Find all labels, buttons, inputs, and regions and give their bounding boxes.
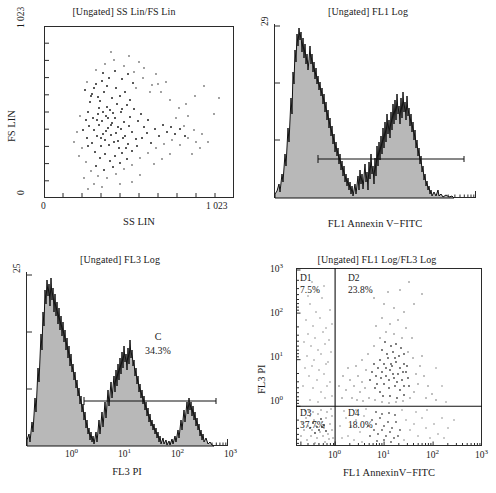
panel-fl1-hist-svg (274, 24, 476, 198)
quadrant-label-d4: D4 18.0% (348, 407, 373, 432)
panel-fl1-fl3-quad-xtick-0: 100 (328, 450, 341, 460)
panel-fl3-hist-gate-marker (84, 397, 216, 405)
panel-fl1-fl3-quad-ylabel: FL3 PI (256, 365, 267, 394)
panel-fl3-hist-plot-area (26, 272, 228, 446)
panel-ss-fs-xtick-max: 1 023 (206, 201, 227, 211)
panel-fl3-hist-gate-percent: 34.3% (118, 344, 198, 358)
panel-fl3-hist-xtick-0: 100 (65, 449, 78, 459)
panel-fl3-hist-svg (26, 272, 228, 446)
panel-fl1-hist-plot-area (274, 24, 476, 198)
panel-ss-fs: [Ungated] SS Lin/FS Lin 1 023 0 FS LIN (0, 0, 248, 246)
panel-fl1-hist-curve (275, 28, 454, 198)
quadrant-d2-percent: 23.8% (348, 284, 373, 296)
panel-fl3-hist-title: [Ungated] FL3 Log (10, 254, 230, 265)
panel-ss-fs-svg (44, 26, 234, 198)
panel-ss-fs-xtick-min: 0 (41, 201, 46, 211)
quadrant-d1-percent: 7.5% (300, 284, 320, 296)
panel-fl1-fl3-quad-xtick-3: 103 (475, 450, 488, 460)
flow-cytometry-figure: [Ungated] SS Lin/FS Lin 1 023 0 FS LIN (0, 0, 496, 493)
panel-fl3-hist-ymax-label: 25 (12, 264, 22, 274)
panel-fl1-fl3-quad-xtick-2: 102 (426, 450, 439, 460)
panel-fl3-hist-curve (27, 278, 214, 446)
panel-ss-fs-ylabel: FS LIN (6, 110, 17, 142)
panel-fl3-hist-xtick-1: 101 (118, 449, 131, 459)
panel-fl3-hist-gate-label: C (118, 330, 198, 344)
panel-fl3-hist-xtick-2: 102 (171, 449, 184, 459)
panel-ss-fs-ytick-min: 0 (16, 190, 26, 195)
panel-fl1-hist: [Ungated] FL1 Log 29 (248, 0, 496, 246)
panel-fl1-hist-xlabel: FL1 Annexin V−FITC (274, 218, 476, 229)
panel-fl1-fl3-quad-ytick-0: 100 (270, 396, 283, 406)
panel-ss-fs-plot-area (44, 26, 234, 198)
panel-ss-fs-xlabel: SS LIN (44, 216, 234, 227)
quadrant-label-d1: D1 7.5% (300, 272, 320, 297)
panel-fl3-hist: [Ungated] FL3 Log 25 (0, 246, 248, 493)
quadrant-d3-name: D3 (300, 407, 325, 419)
panel-fl1-fl3-quad-title: [Ungated] FL1 Log/FL3 Log (262, 254, 492, 265)
quadrant-d1-name: D1 (300, 272, 320, 284)
panel-fl1-hist-title: [Ungated] FL1 Log (258, 6, 478, 17)
quadrant-d4-percent: 18.0% (348, 419, 373, 431)
panel-fl1-fl3-quad-ytick-3: 103 (270, 264, 283, 274)
quadrant-d3-percent: 37.7% (300, 419, 325, 431)
panel-ss-fs-ytick-max: 1 023 (16, 7, 26, 28)
panel-fl3-hist-xtick-3: 103 (224, 449, 237, 459)
panel-fl3-hist-xlabel: FL3 PI (26, 466, 228, 477)
quadrant-label-d3: D3 37.7% (300, 407, 325, 432)
panel-ss-fs-title: [Ungated] SS Lin/FS Lin (0, 6, 248, 17)
quadrant-d4-name: D4 (348, 407, 373, 419)
panel-fl1-fl3-quad-xlabel: FL1 AnnexinV−FITC (296, 467, 482, 478)
panel-fl1-fl3-quad-ytick-2: 102 (270, 308, 283, 318)
panel-fl1-fl3-quad: [Ungated] FL1 Log/FL3 Log FL3 PI 103 102… (248, 246, 496, 493)
panel-fl1-hist-ymax-label: 29 (260, 17, 270, 27)
quadrant-d2-name: D2 (348, 272, 373, 284)
quadrant-label-d2: D2 23.8% (348, 272, 373, 297)
panel-fl1-fl3-quad-ytick-1: 101 (270, 352, 283, 362)
panel-fl1-fl3-quad-xtick-1: 101 (377, 450, 390, 460)
